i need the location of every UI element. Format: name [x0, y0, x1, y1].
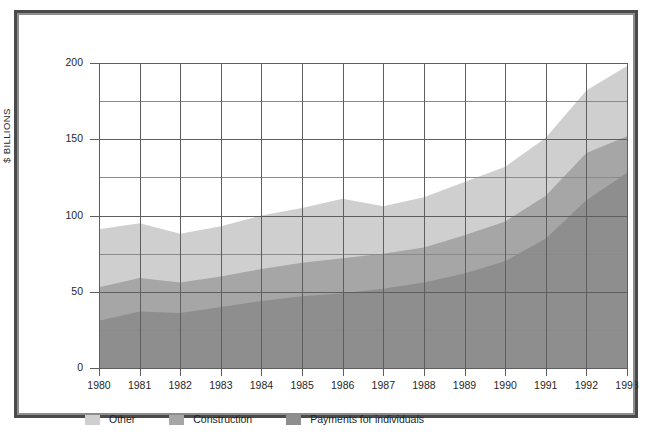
gridline-y-minor: [99, 101, 627, 102]
y-axis-label: 50: [49, 286, 83, 297]
gridline-y-major: [99, 216, 627, 217]
y-axis-tick: [90, 368, 99, 369]
x-axis-tick: [546, 368, 547, 376]
x-axis-label: 1983: [201, 379, 241, 391]
y-axis-label: 200: [49, 57, 83, 68]
legend-swatch: [286, 413, 301, 425]
x-axis-label: 1984: [241, 379, 281, 391]
y-axis-tick: [90, 63, 99, 64]
gridline-x: [505, 63, 506, 368]
legend-item[interactable]: Other: [85, 413, 135, 425]
y-axis-label: 100: [49, 210, 83, 221]
gridline-x: [261, 63, 262, 368]
x-axis-tick: [383, 368, 384, 376]
chart-legend: OtherConstructionPayments for individual…: [85, 411, 458, 427]
x-axis-label: 1980: [79, 379, 119, 391]
gridline-x: [99, 63, 100, 368]
x-axis-tick: [221, 368, 222, 376]
x-axis-tick: [505, 368, 506, 376]
gridline-x: [586, 63, 587, 368]
x-axis-label: 1991: [526, 379, 566, 391]
gridline-y-major: [99, 292, 627, 293]
legend-label: Construction: [193, 413, 252, 425]
x-axis-tick: [302, 368, 303, 376]
x-axis-label: 1988: [404, 379, 444, 391]
plot-area: 050100150200 198019811982198319841985198…: [99, 63, 627, 368]
y-axis-title: $ BILLIONS: [1, 108, 12, 163]
chart-frame: $ BILLIONS 050100150200 1980198119821983…: [14, 10, 638, 418]
x-axis-tick: [627, 368, 628, 376]
x-axis-label: 1982: [160, 379, 200, 391]
gridline-x: [383, 63, 384, 368]
x-axis-tick: [586, 368, 587, 376]
x-axis-label: 1989: [445, 379, 485, 391]
x-axis-label: 1981: [120, 379, 160, 391]
x-axis-label: 1986: [323, 379, 363, 391]
y-axis-tick: [90, 139, 99, 140]
gridline-y-major: [99, 63, 627, 64]
chart-page: $ BILLIONS 050100150200 1980198119821983…: [0, 0, 652, 438]
gridline-x: [424, 63, 425, 368]
legend-item[interactable]: Payments for individuals: [286, 413, 424, 425]
x-axis-tick: [140, 368, 141, 376]
x-axis-tick: [180, 368, 181, 376]
gridline-x: [546, 63, 547, 368]
x-axis-tick: [343, 368, 344, 376]
legend-label: Payments for individuals: [310, 413, 424, 425]
gridline-y-major: [99, 368, 627, 369]
y-axis-label: 150: [49, 133, 83, 144]
gridline-x: [180, 63, 181, 368]
x-axis-tick: [261, 368, 262, 376]
legend-label: Other: [109, 413, 135, 425]
x-axis-label: 1993: [607, 379, 647, 391]
gridline-x: [140, 63, 141, 368]
gridline-y-major: [99, 139, 627, 140]
legend-swatch: [169, 413, 184, 425]
gridline-x: [302, 63, 303, 368]
gridline-x: [221, 63, 222, 368]
x-axis-tick: [465, 368, 466, 376]
x-axis-label: 1992: [566, 379, 606, 391]
x-axis-label: 1987: [363, 379, 403, 391]
y-axis-label: 0: [49, 362, 83, 373]
gridline-y-minor: [99, 254, 627, 255]
legend-item[interactable]: Construction: [169, 413, 252, 425]
y-axis-tick: [90, 292, 99, 293]
x-axis-label: 1985: [282, 379, 322, 391]
gridline-y-minor: [99, 177, 627, 178]
gridline-y-minor: [99, 330, 627, 331]
gridline-x: [465, 63, 466, 368]
x-axis-tick: [424, 368, 425, 376]
y-axis-tick: [90, 216, 99, 217]
legend-swatch: [85, 413, 100, 425]
gridline-x: [627, 63, 628, 368]
gridline-x: [343, 63, 344, 368]
x-axis-tick: [99, 368, 100, 376]
x-axis-label: 1990: [485, 379, 525, 391]
